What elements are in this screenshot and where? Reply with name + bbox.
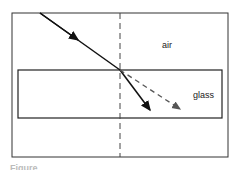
incident-arrow-icon [40,13,78,40]
air-label: air [162,40,172,50]
figure-caption: Figure [10,163,38,170]
refraction-diagram [0,0,236,170]
glass-label: glass [193,90,214,100]
undeviated-ray [120,70,180,109]
refracted-ray [120,70,150,110]
